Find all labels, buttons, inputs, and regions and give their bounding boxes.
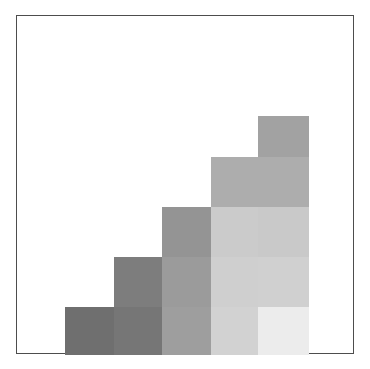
bar-step-3-band-2	[162, 257, 211, 307]
bar-step-5-band-4	[258, 257, 309, 307]
bar-step-2	[114, 257, 162, 355]
bar-step-1-band-1	[65, 307, 114, 355]
bar-step-5	[258, 116, 309, 355]
figure-plate-frame	[16, 15, 354, 354]
bar-step-3	[162, 207, 211, 355]
bar-step-5-band-3	[258, 207, 309, 257]
bar-step-2-band-2	[114, 307, 162, 355]
plot-area	[17, 16, 355, 355]
bar-step-5-band-2	[258, 157, 309, 207]
bar-step-5-band-1	[258, 116, 309, 157]
bar-step-3-band-1	[162, 207, 211, 257]
bar-step-4	[211, 157, 258, 355]
bar-step-4-band-2	[211, 207, 258, 257]
bar-step-4-band-1	[211, 157, 258, 207]
bar-step-4-band-4	[211, 307, 258, 355]
bar-step-3-band-3	[162, 307, 211, 355]
bar-step-2-band-1	[114, 257, 162, 307]
bar-step-1	[65, 307, 114, 355]
figure-root	[0, 0, 370, 369]
bar-step-5-band-5	[258, 307, 309, 355]
bar-step-4-band-3	[211, 257, 258, 307]
